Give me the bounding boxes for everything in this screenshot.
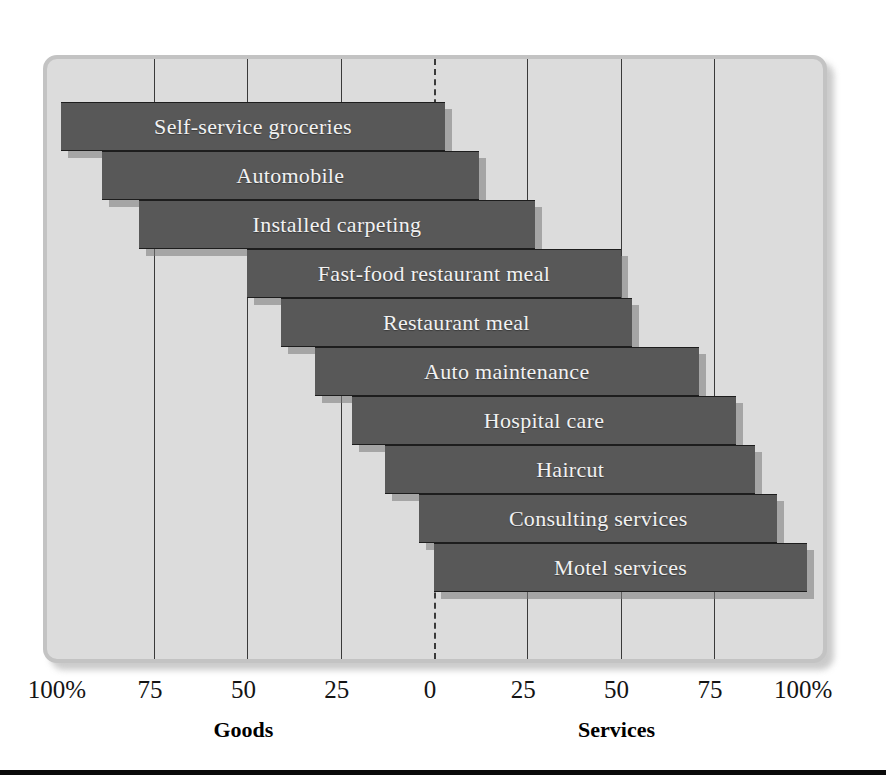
x-tick-8: 100% — [774, 676, 832, 704]
goods-services-chart-figure: Self-service groceriesAutomobileInstalle… — [0, 0, 886, 781]
chart-panel: Self-service groceriesAutomobileInstalle… — [43, 55, 827, 663]
bar-label: Motel services — [554, 555, 687, 581]
bar-auto-maintenance: Auto maintenance — [315, 347, 699, 396]
bar-motel-services: Motel services — [434, 543, 807, 592]
bar-label: Installed carpeting — [253, 212, 422, 238]
bar-automobile: Automobile — [102, 151, 479, 200]
x-tick-2: 50 — [231, 676, 256, 704]
bar-label: Auto maintenance — [424, 359, 589, 385]
bottom-rule — [0, 770, 886, 775]
bar-label: Consulting services — [509, 506, 688, 532]
x-tick-6: 50 — [604, 676, 629, 704]
x-tick-1: 75 — [138, 676, 163, 704]
bar-haircut: Haircut — [385, 445, 754, 494]
x-tick-4: 0 — [424, 676, 437, 704]
axis-label-services: Services — [578, 717, 655, 743]
bar-fast-food-restaurant-meal: Fast-food restaurant meal — [247, 249, 620, 298]
bar-label: Hospital care — [484, 408, 605, 434]
x-tick-7: 75 — [697, 676, 722, 704]
bar-label: Restaurant meal — [383, 310, 530, 336]
bar-installed-carpeting: Installed carpeting — [139, 200, 535, 249]
bar-label: Fast-food restaurant meal — [318, 261, 550, 287]
x-tick-3: 25 — [324, 676, 349, 704]
bar-label: Haircut — [536, 457, 604, 483]
chart-plot-area: Self-service groceriesAutomobileInstalle… — [47, 59, 823, 659]
x-tick-0: 100% — [28, 676, 86, 704]
bar-restaurant-meal: Restaurant meal — [281, 298, 632, 347]
bar-self-service-groceries: Self-service groceries — [61, 102, 445, 151]
bar-hospital-care: Hospital care — [352, 396, 736, 445]
bar-label: Self-service groceries — [154, 114, 352, 140]
axis-label-goods: Goods — [213, 717, 273, 743]
x-tick-5: 25 — [511, 676, 536, 704]
bar-label: Automobile — [236, 163, 344, 189]
bar-consulting-services: Consulting services — [419, 494, 777, 543]
